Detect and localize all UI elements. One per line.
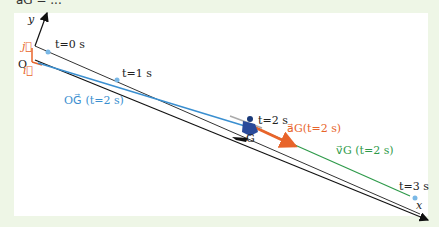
diagram-svg [0, 0, 439, 227]
velocity-label: v⃗G (t=2 s) [336, 144, 394, 157]
t1-label: t=1 s [122, 67, 152, 80]
acceleration-label: a⃗G(t=2 s) [287, 122, 341, 135]
t3-label: t=3 s [399, 180, 429, 193]
t0-label: t=0 s [55, 38, 85, 51]
point-t0 [46, 50, 51, 55]
i-label: i⃗ [23, 64, 33, 77]
y-axis-label: y [28, 13, 34, 26]
t2-label: t=2 s [258, 114, 288, 127]
point-t1 [115, 78, 120, 83]
x-axis [35, 60, 428, 220]
j-label: j⃗ [22, 40, 32, 53]
y-axis [35, 13, 47, 46]
og-label: OG⃗ (t=2 s) [64, 94, 124, 107]
point-g-label: G [246, 132, 255, 145]
x-axis-label: x [416, 199, 422, 212]
slope-upper-line [35, 46, 420, 214]
